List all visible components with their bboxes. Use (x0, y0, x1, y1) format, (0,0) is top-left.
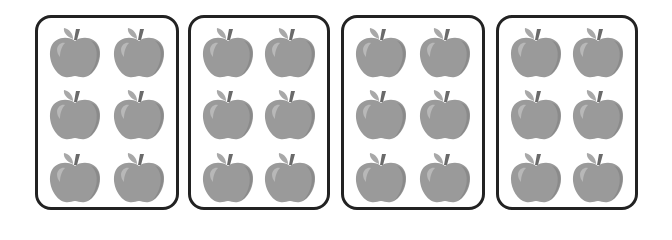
apple-icon (262, 87, 318, 143)
apple-icon (262, 150, 318, 206)
apple-icon (417, 87, 473, 143)
apple-icon (262, 25, 318, 81)
apple-icon (47, 25, 103, 81)
apple-icon (200, 150, 256, 206)
apple-icon (508, 25, 564, 81)
apple-icon (570, 87, 626, 143)
apple-icon (508, 150, 564, 206)
apple-icon (200, 87, 256, 143)
apple-icon (111, 87, 167, 143)
apple-icon (508, 87, 564, 143)
apple-icon (417, 25, 473, 81)
apple-icon (570, 150, 626, 206)
apple-icon (200, 25, 256, 81)
apple-icon (353, 150, 409, 206)
apple-icon (111, 150, 167, 206)
apple-icon (111, 25, 167, 81)
apple-icon (353, 25, 409, 81)
apple-icon (47, 150, 103, 206)
apple-icon (353, 87, 409, 143)
apple-icon (417, 150, 473, 206)
apple-icon (47, 87, 103, 143)
apple-icon (570, 25, 626, 81)
